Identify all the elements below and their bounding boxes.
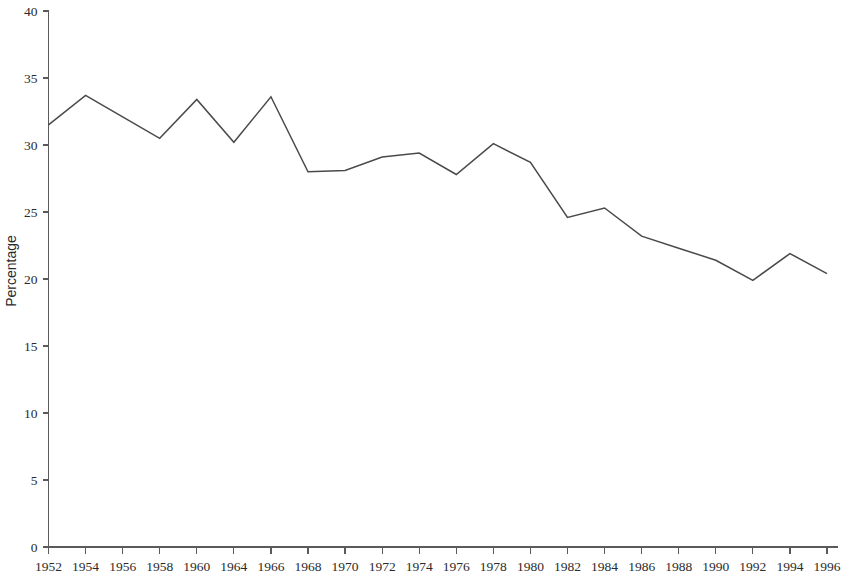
x-tick-label: 1994 — [776, 559, 803, 574]
x-tick-label: 1956 — [109, 559, 136, 574]
x-tick-label: 1982 — [554, 559, 581, 574]
x-tick-label: 1970 — [332, 559, 359, 574]
y-tick-label: 35 — [24, 71, 38, 86]
x-tick-label: 1960 — [183, 559, 210, 574]
x-tick-label: 1966 — [257, 559, 284, 574]
x-tick-label: 1976 — [443, 559, 470, 574]
x-tick-label: 1958 — [146, 559, 173, 574]
y-tick-label: 15 — [24, 339, 38, 354]
x-tick-label: 1964 — [220, 559, 247, 574]
y-tick-label: 10 — [24, 406, 38, 421]
y-tick-label: 20 — [24, 272, 38, 287]
x-tick-label: 1986 — [628, 559, 655, 574]
chart-background — [0, 0, 851, 579]
x-tick-label: 1954 — [72, 559, 99, 574]
x-tick-label: 1980 — [517, 559, 544, 574]
y-tick-label: 5 — [31, 473, 38, 488]
x-tick-label: 1992 — [739, 559, 766, 574]
line-chart: 0510152025303540 19521954195619581960196… — [0, 0, 851, 579]
x-tick-label: 1996 — [814, 559, 841, 574]
x-tick-label: 1988 — [665, 559, 692, 574]
x-tick-label: 1978 — [480, 559, 507, 574]
x-tick-label: 1974 — [406, 559, 433, 574]
x-tick-label: 1984 — [591, 559, 618, 574]
chart-container: 0510152025303540 19521954195619581960196… — [0, 0, 851, 579]
x-tick-label: 1952 — [35, 559, 62, 574]
y-tick-label: 40 — [24, 4, 38, 19]
y-axis-title: Percentage — [3, 235, 19, 307]
y-tick-label: 0 — [31, 540, 38, 555]
x-tick-label: 1968 — [295, 559, 322, 574]
y-axis-title-text: Percentage — [3, 235, 19, 307]
y-tick-label: 25 — [24, 205, 38, 220]
x-tick-label: 1972 — [369, 559, 396, 574]
y-tick-label: 30 — [24, 138, 38, 153]
x-tick-label: 1990 — [702, 559, 729, 574]
